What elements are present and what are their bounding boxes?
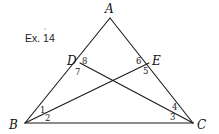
angle-label-3: 3 [170, 112, 175, 122]
angle-label-7: 7 [75, 67, 80, 77]
geometry-figure: Ex. 14 A B C D E 1 2 3 4 5 6 7 8 [0, 0, 219, 134]
angle-label-2: 2 [45, 113, 50, 123]
vertex-label-b: B [8, 118, 18, 132]
angle-label-5: 5 [143, 66, 148, 76]
figure-caption: Ex. 14 [25, 32, 55, 44]
point-label-d: D [66, 54, 77, 68]
triangle-diagram: Ex. 14 A B C D E 1 2 3 4 5 6 7 8 [0, 0, 219, 134]
angle-label-4: 4 [172, 102, 177, 112]
angle-label-8: 8 [82, 56, 87, 66]
speck-mark [44, 28, 45, 29]
vertex-label-a: A [104, 2, 114, 16]
segment-ac [110, 18, 193, 123]
angle-label-6: 6 [136, 56, 141, 66]
vertex-label-c: C [197, 118, 206, 132]
segment-cd [80, 63, 193, 123]
point-label-e: E [151, 54, 161, 68]
